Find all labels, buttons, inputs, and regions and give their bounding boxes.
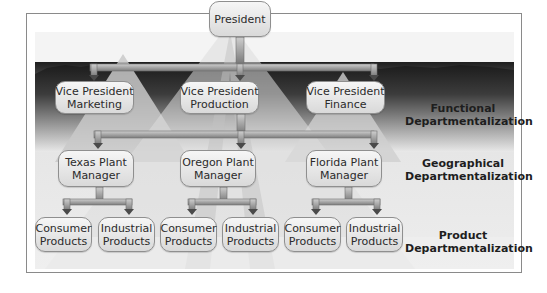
- level-label-line1: Product: [405, 229, 521, 242]
- node-label-line1: Consumer: [35, 222, 91, 235]
- node-label-line2: Production: [190, 98, 249, 111]
- level-label-line2: Departmentalization: [405, 170, 521, 183]
- node-label-line2: Marketing: [67, 98, 122, 111]
- node-texas-consumer-products: Consumer Products: [35, 217, 92, 252]
- node-label-line1: Industrial: [225, 222, 277, 235]
- node-oregon-plant-manager: Oregon Plant Manager: [180, 150, 256, 187]
- node-label-line2: Products: [165, 235, 213, 248]
- level-label-line1: Geographical: [405, 157, 521, 170]
- level-label-line1: Functional: [405, 102, 521, 115]
- node-label-line2: Manager: [72, 169, 120, 182]
- node-president-label: President: [214, 13, 265, 26]
- node-texas-plant-manager: Texas Plant Manager: [58, 150, 134, 187]
- node-label-line1: Industrial: [349, 222, 401, 235]
- level-label-functional: Functional Departmentalization: [405, 102, 521, 128]
- node-label-line2: Manager: [320, 169, 368, 182]
- level-label-product: Product Departmentalization: [405, 229, 521, 255]
- level-label-line2: Departmentalization: [405, 242, 521, 255]
- node-label-line2: Products: [351, 235, 399, 248]
- node-vp-marketing: Vice President Marketing: [55, 81, 134, 114]
- node-label-line2: Products: [289, 235, 337, 248]
- level-label-line2: Departmentalization: [405, 115, 521, 128]
- node-texas-industrial-products: Industrial Products: [98, 217, 155, 252]
- node-label-line1: Vice President: [307, 85, 385, 98]
- node-label-line2: Products: [40, 235, 88, 248]
- node-florida-plant-manager: Florida Plant Manager: [306, 150, 382, 187]
- node-label-line1: Consumer: [160, 222, 216, 235]
- node-label-line1: Industrial: [101, 222, 153, 235]
- node-label-line1: Texas Plant: [65, 156, 127, 169]
- node-label-line2: Products: [103, 235, 151, 248]
- node-label-line1: Consumer: [284, 222, 340, 235]
- node-oregon-consumer-products: Consumer Products: [160, 217, 217, 252]
- node-oregon-industrial-products: Industrial Products: [222, 217, 279, 252]
- node-florida-consumer-products: Consumer Products: [284, 217, 341, 252]
- level-label-geographical: Geographical Departmentalization: [405, 157, 521, 183]
- node-vp-production: Vice President Production: [180, 81, 259, 114]
- node-president: President: [209, 1, 271, 37]
- node-label-line1: Oregon Plant: [182, 156, 254, 169]
- node-label-line1: Vice President: [56, 85, 134, 98]
- node-label-line2: Finance: [324, 98, 366, 111]
- node-label-line1: Florida Plant: [310, 156, 379, 169]
- node-label-line2: Manager: [194, 169, 242, 182]
- node-florida-industrial-products: Industrial Products: [346, 217, 403, 252]
- node-label-line2: Products: [227, 235, 275, 248]
- node-label-line1: Vice President: [181, 85, 259, 98]
- node-vp-finance: Vice President Finance: [306, 81, 385, 114]
